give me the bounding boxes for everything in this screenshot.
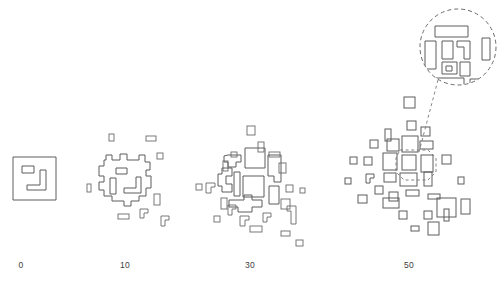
fragment-l [366, 174, 374, 183]
inset-fragment-lower-right [460, 62, 470, 76]
fragment-rect [389, 192, 398, 201]
figure-root: 0 10 30 50 [0, 0, 503, 288]
fragment-rect [383, 198, 399, 208]
core-inner-vertical-bar [110, 178, 116, 194]
fragment-rect [345, 178, 351, 184]
satellite-rect [281, 199, 290, 209]
inset-contents [425, 26, 490, 92]
inner-small-rect [22, 166, 34, 173]
fragment-rect [358, 195, 367, 203]
inset-fragment-lower-mid [442, 62, 457, 74]
fragment-rect [421, 155, 433, 172]
fragment-rect [424, 211, 432, 219]
satellite-l [206, 183, 215, 193]
satellite-rect [154, 194, 160, 205]
satellite-rect [157, 153, 163, 159]
satellite-l [240, 216, 249, 226]
fragment-rect [442, 155, 451, 164]
fragment-rect [384, 173, 396, 182]
satellite-rect [296, 240, 303, 246]
core-inner-rect-small [116, 168, 127, 174]
satellite-rect [300, 188, 305, 193]
inset-fragment-left [425, 41, 436, 69]
fragment-rect [407, 121, 416, 130]
satellite-l [161, 216, 169, 226]
fragment-rect [375, 186, 383, 194]
fragment-rect [350, 157, 357, 164]
inset-fragment-bottom-right-l [470, 79, 482, 90]
satellite-rect [250, 226, 262, 232]
satellite-rect [109, 134, 114, 141]
core-fragment-left-zig [218, 168, 232, 192]
satellite-l [263, 213, 271, 222]
core-inner-l-shape [124, 177, 141, 193]
core-fragment-right-tall [269, 186, 279, 204]
inset-fragment-top [435, 26, 468, 37]
core-fragment-mid-left [234, 172, 240, 196]
fragment-rect [399, 211, 407, 219]
fragment-rect [411, 226, 419, 231]
inset-fragment-lower-mid-hole [446, 66, 452, 71]
satellite-l [140, 209, 148, 218]
satellite-rect [196, 184, 202, 190]
fragment-rect [437, 198, 456, 217]
satellite-rect [247, 126, 255, 135]
satellite-rect [214, 216, 220, 222]
satellite-rect [258, 142, 264, 152]
magnified-inset [420, 9, 496, 92]
axis-label-10: 10 [120, 260, 130, 270]
axis-label-30: 30 [245, 260, 255, 270]
fragment-rect [458, 177, 464, 184]
satellite-rect [286, 185, 293, 192]
axis-label-0: 0 [19, 260, 24, 270]
satellite-rect [279, 163, 286, 173]
inset-fragment-right-edge [482, 38, 490, 60]
fragment-rect [402, 155, 416, 170]
inset-fragment-upper-mid [442, 41, 453, 59]
fragmentation-diagram [0, 0, 503, 288]
fragment-rect [428, 222, 439, 235]
core-fragment-upper-mid [245, 148, 265, 168]
fragment-rect [444, 209, 449, 221]
fragment-rect [420, 141, 433, 149]
fragment-rect [400, 173, 417, 186]
satellite-rect [87, 184, 91, 192]
fragment-rect [424, 172, 432, 186]
jagged-core [99, 154, 151, 206]
fragment-rect [383, 153, 397, 170]
satellite-rect [281, 231, 290, 236]
satellite-rect [118, 214, 129, 219]
fragment-rect [461, 199, 470, 214]
stage-0-group [13, 157, 56, 200]
axis-label-50: 50 [404, 260, 414, 270]
inset-fragment-upper-right-l [457, 41, 470, 59]
satellite-rect [221, 198, 227, 209]
fragment-rect [406, 190, 419, 196]
stage-10-group [87, 134, 169, 226]
fragment-rect [404, 97, 415, 108]
fragment-rect [370, 140, 378, 148]
fragment-rect [364, 157, 372, 165]
stage-50-group [345, 97, 470, 235]
satellite-rect [146, 136, 156, 141]
stage-30-group [196, 126, 305, 246]
fragment-rect [402, 136, 418, 152]
core-fragment-center-square [243, 176, 264, 197]
outer-frame [13, 157, 56, 200]
